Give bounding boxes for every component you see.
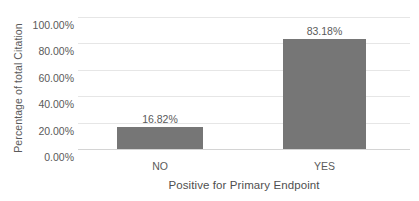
x-axis-title: Positive for Primary Endpoint	[78, 178, 410, 192]
bar-label-no: 16.82%	[117, 113, 203, 125]
y-tick-label-40: 40.00%	[16, 98, 74, 110]
x-tick-label-no: NO	[117, 159, 203, 173]
plot-area: 16.82% 83.18%	[78, 10, 410, 157]
y-tick-label-60: 60.00%	[16, 72, 74, 84]
x-tick-label-yes: YES	[283, 159, 366, 173]
y-axis-tick-labels: 0.00% 20.00% 40.00% 60.00% 80.00% 100.00…	[14, 0, 74, 201]
y-tick-label-100: 100.00%	[16, 19, 74, 31]
bar-label-yes: 83.18%	[283, 25, 366, 37]
x-axis-tick-labels: NO YES	[78, 159, 410, 175]
bar-chart: Percentage of total Citation 0.00% 20.00…	[0, 0, 419, 201]
gridline-100	[78, 17, 410, 18]
bar-yes[interactable]	[283, 39, 366, 149]
y-tick-label-80: 80.00%	[16, 45, 74, 57]
y-tick-label-0: 0.00%	[16, 151, 74, 163]
bar-no[interactable]	[117, 127, 203, 149]
y-tick-label-20: 20.00%	[16, 125, 74, 137]
gridline-0-baseline	[78, 149, 410, 150]
